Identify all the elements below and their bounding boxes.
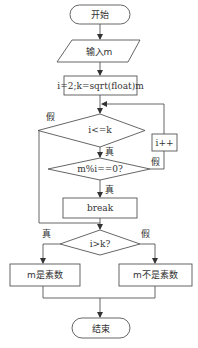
end-label: 结束 [92,323,110,334]
cond1-true-label: 真 [105,146,114,157]
init-label: i=2;k=sqrt(float)m [57,81,144,91]
start-label: 开始 [91,9,109,20]
cond2-diamond: m%i==0? [48,158,150,180]
cond3-false-label: 假 [141,229,150,239]
cond3-true-label: 真 [42,228,51,239]
result-not-prime-node: m不是素数 [119,264,192,286]
cond2-false-label: 假 [151,157,160,167]
cond3-false-path [140,244,155,263]
cond3-diamond: i>k? [60,230,140,255]
cond1-label: i<=k [88,125,112,135]
start-terminal: 开始 [70,5,130,24]
flowchart: 开始 输入m i=2;k=sqrt(float)m i<=k 假 真 i++ 假… [0,0,198,348]
merge-path [43,286,155,298]
result-prime-label: m是素数 [27,269,63,280]
cond2-true-label: 真 [105,184,114,195]
cond3-true-path [43,244,60,263]
break-label: break [87,203,114,213]
input-node: 输入m [57,40,140,62]
init-node: i=2;k=sqrt(float)m [57,76,144,95]
cond3-label: i>k? [90,239,111,249]
break-node: break [63,198,137,218]
cond2-label: m%i==0? [77,164,123,174]
result-prime-node: m是素数 [10,264,80,286]
increment-node: i++ [152,134,177,151]
end-terminal: 结束 [72,318,130,338]
result-not-prime-label: m不是素数 [133,269,178,280]
increment-label: i++ [156,138,174,148]
cond1-false-label: 假 [46,112,55,122]
input-label: 输入m [86,46,113,57]
